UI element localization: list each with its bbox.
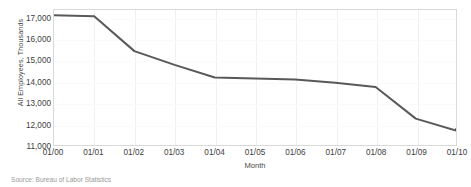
series-line-All Employees, Thousands [54, 15, 456, 130]
line-chart-figure: All Employees, Thousands 17,00016,00015,… [0, 0, 471, 187]
x-axis-tick-labels: 01/0001/0101/0201/0301/0401/0501/0601/07… [53, 148, 457, 160]
x-tick-label: 01/00 [31, 148, 75, 157]
y-tick-label: 13,000 [8, 99, 51, 108]
y-tick-label: 15,000 [8, 56, 51, 65]
x-tick-label: 01/07 [314, 148, 358, 157]
x-tick-label: 01/01 [71, 148, 115, 157]
x-tick-label: 01/09 [395, 148, 439, 157]
x-tick-label: 01/10 [435, 148, 471, 157]
x-tick-label: 01/04 [193, 148, 237, 157]
x-tick-label: 01/05 [233, 148, 277, 157]
data-series-line [54, 10, 456, 145]
x-tick-label: 01/02 [112, 148, 156, 157]
source-note: Source: Bureau of Labor Statistics [11, 176, 111, 183]
y-tick-label: 12,000 [8, 120, 51, 129]
y-axis-tick-labels: 17,00016,00015,00014,00013,00012,00011,0… [8, 9, 51, 147]
y-tick-label: 17,000 [8, 13, 51, 22]
y-tick-label: 14,000 [8, 77, 51, 86]
x-tick-label: 01/03 [152, 148, 196, 157]
x-tick-label: 01/06 [273, 148, 317, 157]
y-tick-label: 16,000 [8, 34, 51, 43]
x-tick-label: 01/08 [354, 148, 398, 157]
x-axis-title: Month [53, 161, 457, 170]
plot-area [53, 9, 457, 146]
